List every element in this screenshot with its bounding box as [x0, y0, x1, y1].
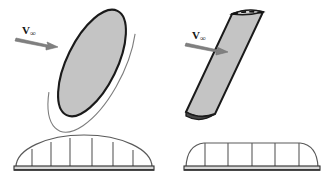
- lift-station-lines-rectangular: [205, 143, 299, 167]
- rectangular-wing-body: [186, 11, 263, 117]
- arrow-shaft-head: [15, 38, 58, 50]
- panel-rectangular-wing: V ∞: [184, 10, 320, 171]
- lift-station-lines-elliptical: [32, 138, 133, 167]
- wing-edge-bar-shadow: [184, 169, 320, 171]
- lift-curve-elliptical: [16, 135, 152, 167]
- velocity-label-left: V ∞: [22, 24, 36, 38]
- rectangular-wing-planform: [186, 10, 263, 120]
- velocity-label-right: V ∞: [192, 29, 206, 43]
- wing-edge-bar-left: [14, 166, 154, 171]
- wing-edge-bar-right: [184, 166, 320, 171]
- velocity-subscript-left: ∞: [30, 29, 36, 38]
- velocity-symbol-right: V: [192, 29, 200, 41]
- velocity-subscript-right: ∞: [200, 34, 206, 43]
- elliptical-wing-planform: [36, 0, 141, 145]
- aerodynamics-wing-comparison-figure: V ∞: [0, 0, 331, 184]
- lift-distribution-rectangular: [184, 143, 320, 171]
- panel-elliptical-wing: V ∞: [14, 0, 154, 171]
- lift-distribution-elliptical: [14, 135, 154, 171]
- velocity-symbol-left: V: [22, 24, 30, 36]
- figure-canvas: V ∞: [0, 0, 331, 184]
- freestream-arrow-left: [15, 38, 58, 50]
- wing-edge-bar-shadow: [14, 169, 154, 171]
- elliptical-wing-body: [44, 0, 140, 126]
